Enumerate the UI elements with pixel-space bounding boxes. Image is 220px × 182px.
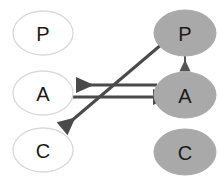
node-label: P: [178, 23, 191, 45]
node-left-c[interactable]: C: [13, 128, 73, 172]
node-left-p[interactable]: P: [13, 11, 73, 55]
diagram-svg: P A C P A C: [0, 0, 220, 182]
node-label: C: [36, 140, 50, 162]
node-right-a[interactable]: A: [154, 72, 216, 118]
node-right-c[interactable]: C: [154, 129, 216, 175]
node-label: A: [178, 85, 192, 107]
node-label: P: [36, 23, 49, 45]
node-label: A: [36, 83, 50, 105]
node-label: C: [178, 142, 192, 164]
node-left-a[interactable]: A: [13, 71, 73, 115]
diagram-canvas: P A C P A C: [0, 0, 220, 182]
node-right-p[interactable]: P: [154, 10, 216, 56]
